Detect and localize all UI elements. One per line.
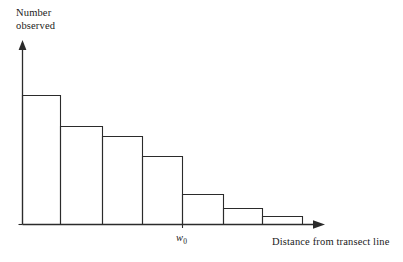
figure-container: Number observed Distance from transect l… [0, 0, 403, 262]
histogram-bar [183, 195, 224, 225]
histogram-bar [224, 209, 263, 225]
tick-label-w-subscript: 0 [183, 237, 187, 246]
y-axis-arrowhead [19, 40, 27, 50]
tick-label-w-symbol: w [176, 232, 183, 243]
histogram-bar [23, 96, 61, 225]
histogram-bars-group [23, 96, 303, 225]
axes-group [19, 40, 326, 229]
histogram-plot [0, 0, 403, 262]
histogram-bar [61, 127, 103, 225]
x-axis-label: Distance from transect line [272, 235, 389, 248]
histogram-bar [263, 217, 303, 225]
x-axis-arrowhead [313, 220, 325, 229]
y-axis-label: Number observed [16, 6, 55, 32]
histogram-bar [143, 157, 183, 225]
y-axis-label-line2: observed [16, 19, 55, 32]
histogram-bar [103, 137, 143, 225]
y-axis-label-line1: Number [16, 6, 55, 19]
x-axis-tick-label-w0: w0 [176, 232, 187, 246]
